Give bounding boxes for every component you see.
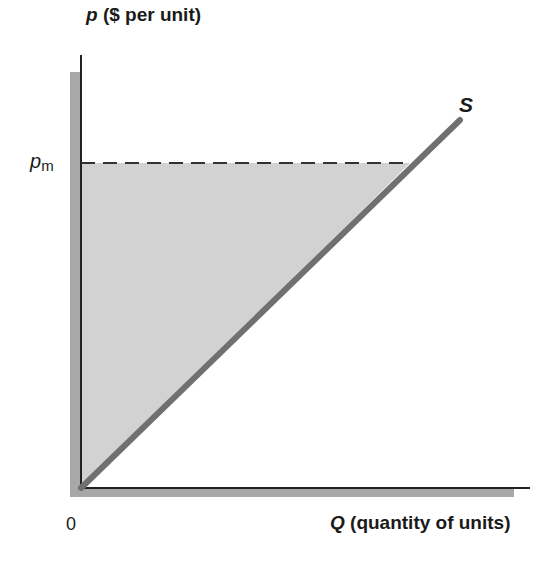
chart-canvas (0, 0, 559, 563)
x-axis-shadow (70, 488, 514, 497)
y-axis-label: p ($ per unit) (86, 4, 201, 26)
pm-label: pm (30, 150, 54, 174)
supply-curve-label: S (459, 93, 473, 117)
x-axis-label: Q (quantity of units) (330, 512, 510, 534)
y-axis-shadow (70, 72, 81, 497)
origin-label: 0 (66, 514, 76, 535)
